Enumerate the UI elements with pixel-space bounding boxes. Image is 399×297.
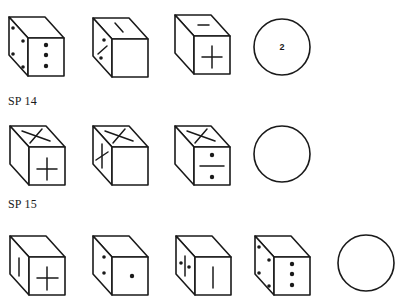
row3-cube2 bbox=[93, 236, 148, 295]
one-dot-icon bbox=[130, 274, 134, 278]
row2-cube2 bbox=[93, 126, 148, 185]
answer-circle-3[interactable] bbox=[338, 235, 394, 291]
row2-cube1 bbox=[10, 126, 65, 185]
cube-puzzle-figure: 2 bbox=[0, 0, 399, 297]
row3-cube3 bbox=[176, 236, 231, 295]
answer-text: 2 bbox=[279, 42, 284, 52]
row2-cube3 bbox=[175, 126, 230, 185]
row1-cube1 bbox=[9, 17, 64, 76]
row3-cube4 bbox=[255, 236, 310, 295]
answer-circle-1[interactable]: 2 bbox=[254, 19, 310, 75]
row3-cube1 bbox=[10, 236, 65, 295]
row1-cube2 bbox=[93, 18, 148, 77]
row1-cube3 bbox=[175, 15, 230, 74]
answer-circle-2[interactable] bbox=[254, 126, 310, 182]
